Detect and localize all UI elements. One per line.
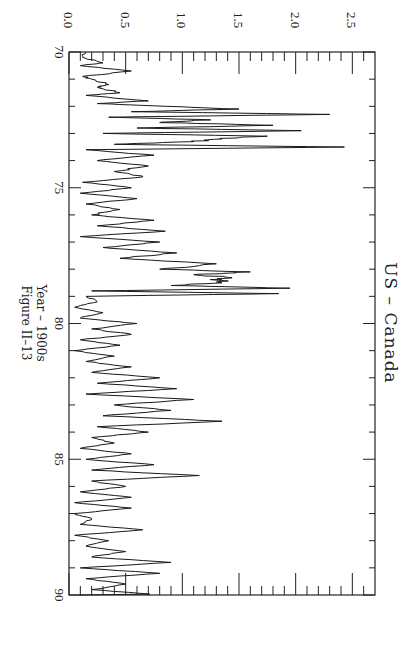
year-tick-label: 90: [52, 589, 67, 602]
year-tick-label: 85: [52, 453, 67, 466]
value-tick-label: 2.0: [288, 12, 303, 28]
value-tick-label: 0.0: [61, 12, 76, 28]
value-tick-label: 0.5: [118, 12, 133, 28]
year-tick-label: 75: [52, 181, 67, 194]
value-axis-labels: 0.00.51.01.52.02.5: [61, 12, 359, 28]
chart-title: US – Canada: [381, 262, 401, 384]
value-tick-label: 1.5: [231, 12, 246, 28]
x-axis-label: Year – 1900s: [34, 283, 48, 361]
year-tick-label: 80: [52, 317, 67, 330]
year-axis-labels: 7075808590: [52, 46, 67, 602]
year-tick-label: 70: [52, 46, 67, 59]
chart: 0.00.51.01.52.02.5 7075808590 US – Canad…: [0, 0, 417, 652]
value-tick-label: 2.5: [344, 12, 359, 28]
series-line-us-canada: [75, 52, 345, 595]
figure-caption: Figure II–13: [19, 286, 33, 361]
value-tick-label: 1.0: [174, 12, 189, 28]
